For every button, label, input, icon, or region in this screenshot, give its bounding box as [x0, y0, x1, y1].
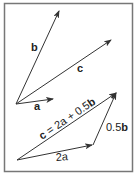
label-b: b: [31, 41, 38, 53]
label-a: a: [34, 100, 41, 112]
vector-diagram: b c a 2a 0.5b c = 2a + 0.5b: [0, 0, 135, 176]
label-c: c: [77, 62, 83, 74]
label-2a: 2a: [55, 150, 69, 163]
label-half-b: 0.5b: [106, 121, 128, 133]
